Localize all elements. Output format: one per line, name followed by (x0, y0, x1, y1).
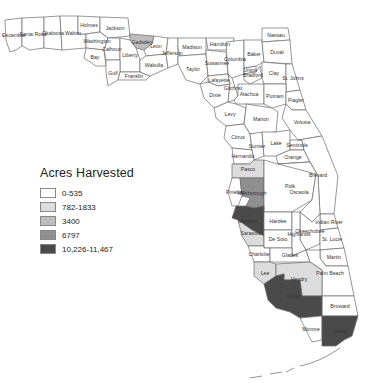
county-label: St. Lucie (322, 236, 342, 242)
county-label: Pasco (241, 166, 256, 172)
legend-label: 782-1833 (62, 203, 96, 212)
county-label: Indian River (315, 219, 343, 225)
county-label: Nassau (267, 32, 285, 38)
county-label: Volusia (294, 119, 311, 125)
county-label: Citrus (231, 134, 245, 140)
legend-label: 0-535 (62, 189, 82, 198)
county-label: Charlotte (248, 251, 269, 257)
county-label: Holmes (80, 22, 98, 28)
county-label: Palm Beach (316, 270, 344, 276)
county-label: Osceola (289, 189, 308, 195)
county-label: Hamilton (210, 41, 231, 47)
county-label: Leon (150, 43, 162, 49)
county-label: Columbia (224, 56, 246, 62)
legend-item-0: 0-535 (40, 186, 134, 200)
legend-title: Acres Harvested (40, 166, 134, 180)
legend-swatch (40, 244, 56, 254)
county-label: Hardee (269, 218, 286, 224)
county-label: Bradford (243, 72, 263, 78)
county-label: Walton (65, 30, 81, 36)
county-label: Jackson (105, 25, 124, 31)
county-label: Sumter (249, 143, 266, 149)
county-label: Bay (91, 54, 100, 60)
county-label: Lee (261, 270, 270, 276)
county-label: Hernando (232, 153, 255, 159)
county-label: Glades (282, 252, 299, 258)
county-label: Brevard (309, 172, 327, 178)
county-label: Gulf (108, 70, 118, 76)
county-label: Taylor (186, 66, 200, 72)
county-label: Collier (286, 293, 301, 299)
county-label: Hillsborough (238, 190, 267, 196)
legend-label: 6797 (62, 231, 80, 240)
county-label: Clay (269, 70, 280, 76)
county-label: De Soto (269, 236, 288, 242)
county-label: Lake (270, 140, 281, 146)
legend-swatch (40, 202, 56, 212)
legend-label: 3400 (62, 217, 80, 226)
legend-item-1: 782-1833 (40, 200, 134, 214)
county-label: Monroe (302, 326, 320, 332)
legend-swatch (40, 216, 56, 226)
county-label: Martin (327, 254, 342, 260)
county-label: Putnam (266, 93, 284, 99)
legend-item-2: 3400 (40, 214, 134, 228)
legend-item-4: 10,226-11,467 (40, 242, 134, 256)
legend-swatch (40, 188, 56, 198)
county-label: Orange (284, 154, 301, 160)
county-label: Duval (270, 49, 283, 55)
county-label: Wakulla (145, 62, 163, 68)
county-label: Washington (83, 38, 110, 44)
county-label: Liberty (122, 52, 138, 58)
county-label: Highlands (287, 231, 310, 237)
county-label: Seminole (286, 142, 308, 148)
county-label: Lafayette (208, 77, 229, 83)
county-label: Okaloosa (42, 30, 64, 36)
county-label: Alachua (240, 91, 259, 97)
county-label: Hendry (291, 276, 308, 282)
florida-keys (250, 348, 340, 378)
county-label: Broward (330, 303, 349, 309)
legend: Acres Harvested 0-535 782-1833 3400 6797… (40, 166, 134, 256)
county-label: Flagler (288, 97, 304, 103)
legend-item-3: 6797 (40, 228, 134, 242)
county-label: Calhoun (102, 46, 121, 52)
county-label: Franklin (125, 73, 144, 79)
county-label: Baker (247, 51, 261, 57)
legend-swatch (40, 230, 56, 240)
county-label: Jefferson (161, 50, 182, 56)
county-label: Marion (253, 116, 269, 122)
county-label: Levy (225, 111, 236, 117)
county-label: Dixie (209, 92, 221, 98)
county-label: Dade (334, 328, 347, 334)
county-label: Madison (182, 44, 202, 50)
county-label: St. Johns (282, 75, 304, 81)
legend-label: 10,226-11,467 (62, 245, 113, 254)
county-label: Sarasota (241, 230, 262, 236)
county-label: Manatee (238, 218, 258, 224)
